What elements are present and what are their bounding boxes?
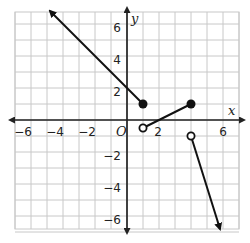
- closed-point-1-1: [139, 100, 148, 109]
- y-tick: 4: [113, 53, 121, 67]
- piece-2-segment: [143, 104, 191, 128]
- piece-3-ray: [191, 136, 220, 229]
- x-tick: 2: [154, 125, 162, 139]
- y-tick: 6: [113, 21, 121, 35]
- x-axis-label: x: [228, 103, 236, 118]
- x-tick: 6: [219, 125, 227, 139]
- x-tick: −2: [78, 125, 96, 139]
- piece-1-ray: [50, 11, 143, 104]
- open-point-1-neg-half: [139, 124, 146, 131]
- y-tick: 2: [113, 85, 121, 99]
- open-point-4-neg1: [187, 132, 194, 139]
- origin-label: O: [116, 124, 127, 139]
- y-tick: −4: [103, 181, 121, 195]
- y-tick: −2: [103, 149, 121, 163]
- x-tick: −6: [14, 125, 32, 139]
- y-axis-label: y: [130, 11, 139, 26]
- x-tick: −4: [46, 125, 64, 139]
- closed-point-4-1: [187, 100, 196, 109]
- y-tick: −6: [103, 213, 121, 227]
- piecewise-graph: −6 −4 −2 2 6 6 4 2 −2 −4 −6 O x y: [0, 0, 250, 243]
